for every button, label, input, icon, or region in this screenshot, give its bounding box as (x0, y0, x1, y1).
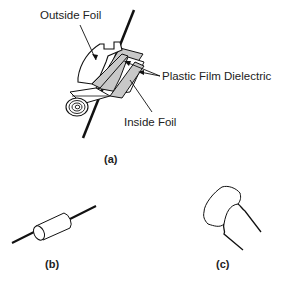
radial-capacitor: (c) (204, 186, 261, 270)
inside-foil-leader (130, 80, 152, 112)
outside-foil-label: Outside Foil (40, 9, 101, 21)
caption-c: (c) (216, 258, 230, 270)
caption-b: (b) (45, 258, 59, 270)
caption-a: (a) (104, 153, 118, 165)
radial-lead-left (223, 224, 243, 250)
film-capacitor-construction: Outside Foil Plastic Film Dielectric Ins… (40, 9, 272, 165)
plastic-film-dielectric-label: Plastic Film Dielectric (162, 70, 272, 82)
axial-lead-right (68, 206, 96, 220)
axial-capacitor: (b) (12, 206, 96, 270)
capacitor-figure: Outside Foil Plastic Film Dielectric Ins… (0, 0, 287, 281)
radial-lead-right (238, 204, 261, 232)
radial-body (204, 186, 241, 226)
roll-spiral-icon (66, 98, 88, 116)
inside-foil-label: Inside Foil (124, 116, 176, 128)
